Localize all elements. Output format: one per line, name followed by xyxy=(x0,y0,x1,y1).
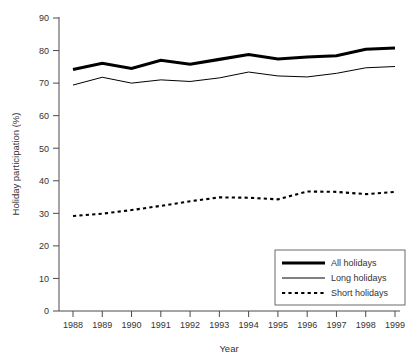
y-tick-label: 70 xyxy=(39,78,49,88)
legend-label-1: Long holidays xyxy=(331,273,387,283)
y-tick-label: 60 xyxy=(39,111,49,121)
y-tick-label: 40 xyxy=(39,176,49,186)
x-tick-label: 1998 xyxy=(356,320,376,330)
y-axis-ticks: 0102030405060708090 xyxy=(39,13,59,316)
chart-container: 0102030405060708090 19881989199019911992… xyxy=(0,0,416,360)
x-tick-label: 1988 xyxy=(63,320,83,330)
x-tick-label: 1995 xyxy=(268,320,288,330)
series-line-all-holidays xyxy=(73,48,395,69)
y-tick-label: 0 xyxy=(44,306,49,316)
x-tick-label: 1993 xyxy=(209,320,229,330)
x-tick-label: 1994 xyxy=(239,320,259,330)
y-tick-label: 30 xyxy=(39,209,49,219)
y-tick-label: 90 xyxy=(39,13,49,23)
x-axis-ticks: 1988198919901991199219931994199519961997… xyxy=(63,311,405,330)
x-axis-title: Year xyxy=(219,343,238,354)
legend-label-0: All holidays xyxy=(331,258,377,268)
x-tick-label: 1991 xyxy=(151,320,171,330)
series-line-short-holidays xyxy=(73,192,395,216)
series-line-long-holidays xyxy=(73,67,395,86)
x-tick-label: 1992 xyxy=(180,320,200,330)
y-tick-label: 20 xyxy=(39,241,49,251)
y-tick-label: 50 xyxy=(39,144,49,154)
y-tick-label: 10 xyxy=(39,274,49,284)
y-axis-title: Holiday participation (%) xyxy=(10,113,21,216)
line-chart: 0102030405060708090 19881989199019911992… xyxy=(0,0,416,360)
legend-label-2: Short holidays xyxy=(331,288,389,298)
data-series-layer xyxy=(73,48,395,216)
x-tick-label: 1997 xyxy=(326,320,346,330)
x-tick-label: 1999 xyxy=(385,320,405,330)
chart-legend: All holidaysLong holidaysShort holidays xyxy=(275,250,405,305)
x-tick-label: 1996 xyxy=(297,320,317,330)
x-tick-label: 1990 xyxy=(122,320,142,330)
y-tick-label: 80 xyxy=(39,46,49,56)
x-tick-label: 1989 xyxy=(92,320,112,330)
